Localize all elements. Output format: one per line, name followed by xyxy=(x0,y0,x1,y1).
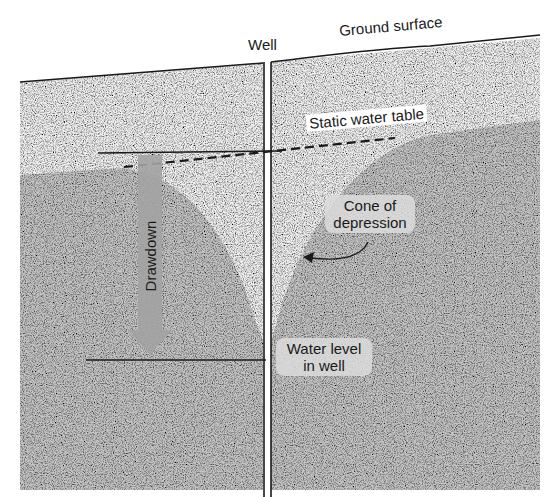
water-level-label-line1: Water level xyxy=(282,340,366,357)
well-label: Well xyxy=(248,36,277,53)
cone-label-line2: depression xyxy=(331,214,409,231)
drawdown-label: Drawdown xyxy=(142,221,159,292)
water-level-in-well-label: Water level in well xyxy=(276,338,372,376)
water-level-label-line2: in well xyxy=(282,357,366,374)
cone-of-depression-label: Cone of depression xyxy=(325,195,415,233)
well-drawdown-diagram: Well Ground surface Static water table C… xyxy=(0,0,558,497)
diagram-svg xyxy=(0,0,558,497)
cone-label-line1: Cone of xyxy=(331,197,409,214)
